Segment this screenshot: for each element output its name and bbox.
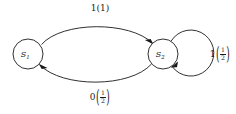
edge-label-s2-self-loop: 1 ( 1 2 ) bbox=[204, 45, 236, 63]
edge-s1-to-s2 bbox=[42, 27, 153, 45]
fraction-denominator: 2 bbox=[220, 55, 226, 61]
fraction-denominator: 2 bbox=[100, 98, 106, 104]
open-paren: ( bbox=[216, 45, 220, 63]
edge-s2-to-s1 bbox=[40, 64, 152, 82]
arrowhead-s2-to-s1 bbox=[39, 64, 48, 69]
close-paren: ) bbox=[226, 45, 230, 63]
close-paren: ) bbox=[106, 88, 110, 106]
probability-fraction: 1 2 bbox=[220, 47, 226, 61]
edge-label-symbol: 1 bbox=[210, 50, 216, 59]
edge-label-symbol: 0 bbox=[90, 93, 96, 102]
edge-label-s2-to-s1: 0 ( 1 2 ) bbox=[80, 88, 120, 106]
close-paren: ) bbox=[106, 4, 110, 13]
probability-fraction: 1 2 bbox=[100, 90, 106, 104]
fraction-numerator: 1 bbox=[220, 47, 226, 53]
fraction-numerator: 1 bbox=[100, 90, 106, 96]
state-transition-diagram: S1 S2 1 ( 1 ) 0 ( 1 2 ) 1 ( 1 2 ) bbox=[0, 0, 236, 114]
open-paren: ( bbox=[96, 88, 100, 106]
edge-label-s1-to-s2: 1 ( 1 ) bbox=[82, 2, 118, 15]
